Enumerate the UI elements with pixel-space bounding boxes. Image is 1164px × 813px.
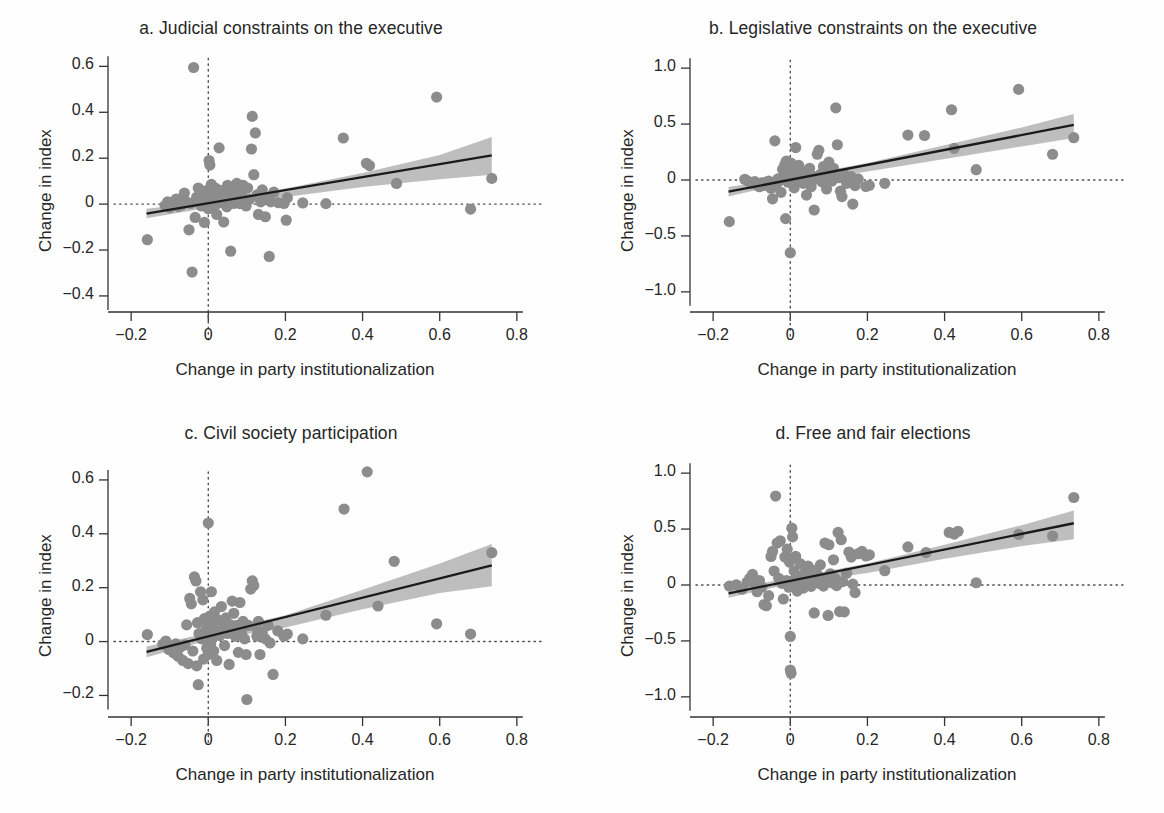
data-point [836,534,847,545]
panel-d-plot: −1.0−0.500.51.0−0.200.20.40.60.8Change i… [582,405,1164,805]
y-tick-label-0: −1.0 [606,281,676,299]
x-tick-label-1: 0 [168,326,248,344]
data-point [282,192,293,203]
data-point [320,610,331,621]
data-point [830,102,841,113]
data-point [203,517,214,528]
data-point [1047,149,1058,160]
data-point [197,594,208,605]
data-point [234,597,245,608]
data-point [206,586,217,597]
data-point [782,544,793,555]
data-point [372,600,383,611]
data-point [183,224,194,235]
x-tick-label-5: 0.8 [1059,326,1139,344]
data-point [864,180,875,191]
y-tick-label-4: 0.4 [24,101,94,119]
x-tick-label-0: −0.2 [91,731,171,749]
data-point [142,629,153,640]
scatter-points [724,84,1080,259]
x-tick-label-4: 0.6 [400,731,480,749]
data-point [297,633,308,644]
data-point [902,541,913,552]
data-point [297,197,308,208]
data-point [142,234,153,245]
data-point [247,111,258,122]
data-point [847,198,858,209]
data-point [879,178,890,189]
data-point [211,655,222,666]
data-point [785,247,796,258]
x-tick-label-5: 0.8 [1059,731,1139,749]
x-axis-label: Change in party institutionalization [596,360,1164,380]
y-tick-label-1: 0 [24,631,94,649]
panel-b-plot: −1.0−0.500.51.0−0.200.20.40.60.8Change i… [582,0,1164,400]
data-point [190,575,201,586]
data-point [780,213,791,224]
x-tick-label-5: 0.8 [477,731,557,749]
data-point [186,266,197,277]
data-point [832,139,843,150]
data-point [264,637,275,648]
data-point [778,593,789,604]
x-tick-label-0: −0.2 [673,731,753,749]
y-tick-label-1: −0.2 [24,239,94,257]
y-tick-label-3: 0.2 [24,147,94,165]
data-point [785,631,796,642]
panel-c: c. Civil society participation −0.200.20… [0,405,582,805]
data-point [1047,530,1058,541]
data-point [809,204,820,215]
data-point [213,142,224,153]
data-point [218,216,229,227]
panel-a: a. Judicial constraints on the executive… [0,0,582,400]
y-tick-label-3: 0.4 [24,523,94,541]
data-point [216,601,227,612]
y-tick-label-4: 1.0 [606,462,676,480]
data-point [879,565,890,576]
y-tick-label-4: 0.6 [24,469,94,487]
data-point [761,600,772,611]
data-point [188,62,199,73]
x-tick-label-3: 0.4 [323,326,403,344]
data-point [1068,492,1079,503]
data-point [391,178,402,189]
data-point [282,628,293,639]
x-axis-label: Change in party institutionalization [14,765,596,785]
data-point [946,104,957,115]
data-point [828,554,839,565]
data-point [809,607,820,618]
x-tick-label-5: 0.8 [477,326,557,344]
panel-c-plot: −0.200.20.40.6−0.200.20.40.60.8Change in… [0,405,582,805]
y-axis-label: Change in index [36,534,56,657]
data-point [971,577,982,588]
data-point [431,92,442,103]
data-point [787,531,798,542]
data-point [187,645,198,656]
data-point [465,204,476,215]
data-point [186,598,197,609]
y-tick-label-0: −0.4 [24,285,94,303]
data-point [1068,132,1079,143]
y-axis-label: Change in index [618,129,638,252]
data-point [389,556,400,567]
data-point [338,132,349,143]
data-point [193,679,204,690]
data-point [486,547,497,558]
data-point [181,619,192,630]
data-point [763,590,774,601]
data-point [815,559,826,570]
x-tick-label-1: 0 [750,326,830,344]
data-point [902,129,913,140]
data-point [769,135,780,146]
data-point [242,182,253,193]
y-tick-label-4: 1.0 [606,57,676,75]
x-tick-label-3: 0.4 [323,731,403,749]
y-tick-label-2: 0 [606,169,676,187]
data-point [813,145,824,156]
y-tick-label-2: 0 [606,574,676,592]
x-tick-label-2: 0.2 [827,731,907,749]
data-point [264,251,275,262]
x-axis-label: Change in party institutionalization [14,360,596,380]
data-point [254,649,265,660]
x-tick-label-4: 0.6 [400,326,480,344]
